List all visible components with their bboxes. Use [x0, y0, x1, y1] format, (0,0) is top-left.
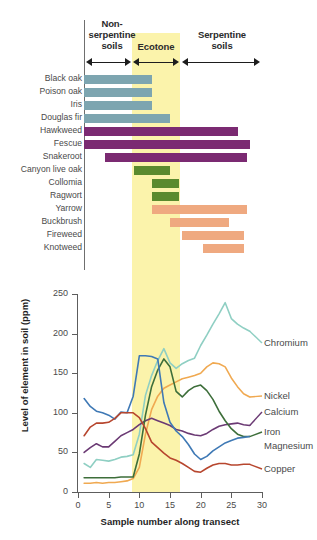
leader-line-nickel [250, 396, 262, 397]
range-bar [170, 218, 229, 227]
range-bar [152, 205, 247, 214]
species-label-black-oak: Black oak [0, 73, 82, 83]
range-bar [105, 153, 247, 162]
species-label-canyon-live-oak: Canyon live oak [0, 164, 82, 174]
species-label-iris: Iris [0, 99, 82, 109]
line-series-nickel [84, 363, 250, 483]
zone-arrow-serpentine [182, 57, 260, 68]
range-bar [152, 179, 179, 188]
species-label-collomia: Collomia [0, 177, 82, 187]
line-series-magnesium [84, 356, 250, 460]
species-label-buckbrush: Buckbrush [0, 216, 82, 226]
range-bar [84, 127, 238, 136]
range-bar [152, 192, 179, 201]
species-label-fireweed: Fireweed [0, 229, 82, 239]
range-bar [84, 88, 152, 97]
element-level-panel: 050100150200250 051015202530 Level of el… [0, 272, 317, 540]
range-bar [182, 231, 244, 240]
species-label-knotweed: Knotweed [0, 242, 82, 252]
series-label-copper: Copper [264, 463, 295, 474]
species-range-panel: Non-serpentinesoils Ecotone Serpentineso… [0, 0, 317, 272]
leader-line-iron [250, 432, 262, 437]
series-label-calcium: Calcium [264, 406, 298, 417]
leader-line-calcium [250, 412, 262, 425]
range-bar [84, 114, 170, 123]
species-label-fescue: Fescue [0, 138, 82, 148]
series-label-nickel: Nickel [264, 390, 290, 401]
line-series-calcium [84, 418, 250, 452]
species-label-ragwort: Ragwort [0, 190, 82, 200]
series-label-iron: Iron [264, 426, 280, 437]
series-label-magnesium: Magnesium [264, 440, 313, 451]
range-bar [84, 101, 152, 110]
range-bar [84, 140, 250, 149]
species-label-snakeroot: Snakeroot [0, 151, 82, 161]
range-bar [84, 75, 152, 84]
range-bar [203, 244, 245, 253]
range-bar [134, 166, 170, 175]
leader-line-copper [250, 464, 262, 469]
series-label-chromium: Chromium [264, 337, 308, 348]
leader-line-chromium [250, 331, 262, 343]
serpentine-soil-figure: Non-serpentinesoils Ecotone Serpentineso… [0, 0, 317, 540]
species-label-poison-oak: Poison oak [0, 86, 82, 96]
zone-arrow-non-serpentine [86, 57, 131, 68]
species-label-yarrow: Yarrow [0, 203, 82, 213]
zone-arrow-ecotone [133, 57, 179, 68]
species-label-douglas-fir: Douglas fir [0, 112, 82, 122]
species-label-hawkweed: Hawkweed [0, 125, 82, 135]
zone-label-ecotone: Ecotone [130, 41, 182, 52]
zone-label-serpentine: Serpentinesoils [186, 29, 258, 51]
line-series-iron [84, 359, 250, 478]
